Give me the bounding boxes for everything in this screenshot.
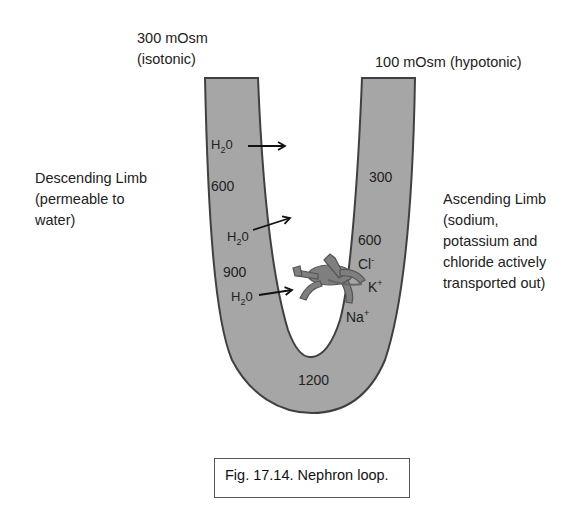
descending-value-600: 600 [211, 178, 235, 194]
ascending-value-600: 600 [358, 232, 382, 248]
nephron-loop-diagram: 600 900 300 600 1200 H20 H20 H20 Cl- K+ … [0, 0, 580, 528]
bottom-value-1200: 1200 [298, 372, 329, 388]
figure-caption: Fig. 17.14. Nephron loop. [214, 458, 410, 498]
ascending-value-300: 300 [369, 169, 393, 185]
descending-value-900: 900 [223, 264, 247, 280]
